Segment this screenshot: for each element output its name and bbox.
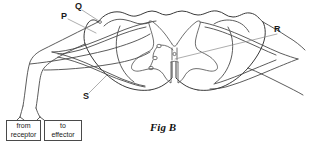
from-receptor-line2: receptor	[11, 131, 37, 139]
q-marker-dot	[99, 21, 102, 24]
from-receptor-box: from receptor	[6, 120, 41, 141]
right-nerve-root	[200, 22, 305, 95]
to-effector-box: to effector	[44, 120, 82, 141]
label-Q: Q	[75, 2, 82, 11]
from-receptor-line1: from	[17, 122, 31, 130]
figure-caption: Fig B	[150, 121, 176, 133]
figure-b-diagram: P Q R S from receptor to effector Fig B	[0, 0, 309, 152]
to-effector-line1: to	[60, 122, 66, 130]
leader-line-S	[89, 75, 107, 93]
label-R: R	[274, 25, 281, 34]
label-S: S	[83, 92, 89, 101]
label-P: P	[61, 12, 67, 21]
spinal-cord-outline	[84, 11, 265, 91]
central-canal	[173, 52, 176, 55]
leader-line-Q	[82, 10, 99, 21]
to-effector-line2: effector	[51, 131, 74, 139]
leader-line-P	[68, 19, 96, 33]
